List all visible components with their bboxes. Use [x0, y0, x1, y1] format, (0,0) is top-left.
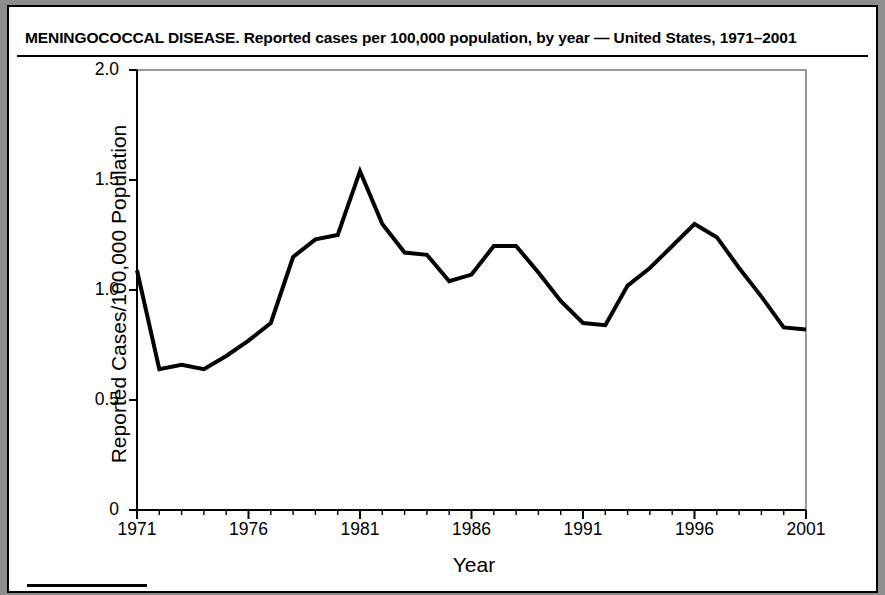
x-tick-label: 1991	[538, 519, 628, 540]
y-tick-label: 2.0	[57, 59, 119, 80]
x-tick-label: 1976	[204, 519, 294, 540]
x-tick-label: 1986	[427, 519, 517, 540]
x-axis-title: Year	[139, 553, 809, 577]
x-tick-label: 2001	[761, 519, 851, 540]
y-tick-label: 1.0	[57, 279, 119, 300]
chart-footnote: Rates of meningococcal disease have been…	[27, 592, 867, 593]
y-tick-label: 0.5	[57, 389, 119, 410]
x-tick-label: 1996	[650, 519, 740, 540]
chart-plot-area: Reported Cases/100,000 Population Year 0…	[9, 7, 878, 593]
x-tick-label: 1971	[92, 519, 182, 540]
footnote-divider	[27, 584, 147, 587]
y-tick-label: 0	[57, 499, 119, 520]
figure-panel: MENINGOCOCCAL DISEASE. Reported cases pe…	[7, 5, 878, 593]
x-tick-label: 1981	[315, 519, 405, 540]
data-series-line	[137, 171, 806, 369]
line-chart-svg	[9, 7, 878, 593]
plot-frame	[137, 70, 806, 510]
y-tick-label: 1.5	[57, 169, 119, 190]
